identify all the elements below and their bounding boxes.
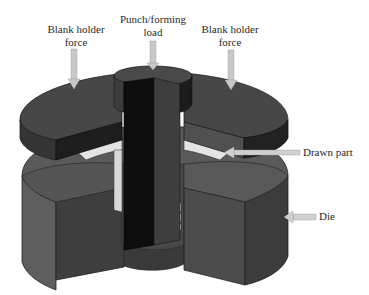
label-drawn-part: Drawn part xyxy=(303,146,353,159)
label-line: force xyxy=(38,36,114,49)
label-line: Punch/forming xyxy=(110,13,196,26)
label-line: load xyxy=(110,26,196,39)
label-blank-holder-force-right: Blank holder force xyxy=(192,23,268,49)
label-line: Blank holder xyxy=(192,23,268,36)
label-line: force xyxy=(192,36,268,49)
label-die: Die xyxy=(319,210,335,223)
punch xyxy=(114,66,192,250)
label-punch-forming-load: Punch/forming load xyxy=(110,13,196,39)
arrow-left-die-icon xyxy=(284,211,316,223)
label-line: Blank holder xyxy=(38,23,114,36)
label-blank-holder-force-left: Blank holder force xyxy=(38,23,114,49)
